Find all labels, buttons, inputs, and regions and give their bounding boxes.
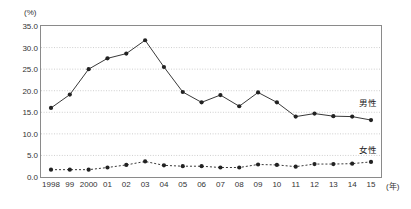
data-point — [369, 118, 373, 122]
x-tick-label: 05 — [178, 180, 187, 189]
data-point — [143, 159, 147, 163]
data-point — [105, 56, 109, 60]
x-tick-label: 14 — [348, 180, 357, 189]
y-tick-label: 25.0 — [2, 65, 38, 74]
data-point — [162, 163, 166, 167]
x-tick-label: 08 — [235, 180, 244, 189]
data-point — [275, 100, 279, 104]
y-axis-tick-labels: 0.05.010.015.020.025.030.035.0 — [0, 25, 38, 178]
data-point — [49, 106, 53, 110]
data-point — [181, 90, 185, 94]
data-point — [218, 93, 222, 97]
data-point — [87, 67, 91, 71]
x-tick-label: 09 — [254, 180, 263, 189]
male-series-label: 男性 — [359, 96, 377, 108]
series-line-female — [51, 161, 371, 169]
x-tick-label: 07 — [216, 180, 225, 189]
data-point — [124, 52, 128, 56]
x-tick-label: 10 — [272, 180, 281, 189]
data-point — [294, 115, 298, 119]
series-line-male — [51, 40, 371, 120]
data-point — [312, 162, 316, 166]
data-point — [275, 163, 279, 167]
data-point — [68, 93, 72, 97]
data-point — [218, 165, 222, 169]
data-point — [350, 162, 354, 166]
chart-figure: (%) 0.05.010.015.020.025.030.035.0 19989… — [0, 0, 411, 209]
data-point — [162, 65, 166, 69]
y-tick-label: 0.0 — [2, 173, 38, 182]
data-point — [199, 100, 203, 104]
y-tick-label: 35.0 — [2, 22, 38, 31]
x-axis-unit-label: (年) — [386, 180, 399, 191]
y-tick-label: 15.0 — [2, 108, 38, 117]
data-point — [68, 168, 72, 172]
data-point — [331, 162, 335, 166]
y-tick-label: 30.0 — [2, 43, 38, 52]
y-tick-label: 10.0 — [2, 129, 38, 138]
data-point — [369, 160, 373, 164]
x-tick-label: 99 — [65, 180, 74, 189]
data-point — [256, 162, 260, 166]
data-point — [181, 164, 185, 168]
data-point — [199, 164, 203, 168]
y-tick-label: 20.0 — [2, 86, 38, 95]
data-point — [350, 115, 354, 119]
chart-canvas — [41, 26, 381, 177]
x-tick-label: 04 — [159, 180, 168, 189]
x-tick-label: 13 — [329, 180, 338, 189]
data-point — [256, 90, 260, 94]
data-point — [331, 114, 335, 118]
x-tick-label: 1998 — [42, 180, 60, 189]
data-point — [124, 163, 128, 167]
x-axis-tick-labels: 1998992000010203040506070809101112131415 — [40, 180, 382, 198]
plot-area — [40, 25, 382, 178]
female-series-label: 女性 — [359, 143, 377, 155]
x-tick-label: 03 — [141, 180, 150, 189]
y-tick-label: 5.0 — [2, 151, 38, 160]
x-tick-label: 01 — [103, 180, 112, 189]
data-point — [87, 168, 91, 172]
x-tick-label: 2000 — [80, 180, 98, 189]
x-tick-label: 15 — [367, 180, 376, 189]
data-point — [294, 165, 298, 169]
x-tick-label: 02 — [122, 180, 131, 189]
data-point — [237, 165, 241, 169]
data-point — [105, 165, 109, 169]
data-point — [143, 38, 147, 42]
x-tick-label: 06 — [197, 180, 206, 189]
y-axis-unit-label: (%) — [24, 8, 36, 17]
data-point — [49, 168, 53, 172]
x-tick-label: 12 — [310, 180, 319, 189]
x-tick-label: 11 — [292, 180, 300, 189]
data-point — [312, 111, 316, 115]
data-point — [237, 104, 241, 108]
